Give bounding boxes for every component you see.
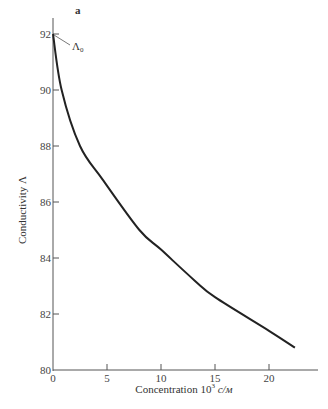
y-tick-label: 84 — [40, 252, 52, 264]
y-axis-title: Conductivity Λ — [16, 176, 28, 244]
y-ticks: 80828486889092 — [40, 28, 59, 376]
annotation-lambda0: Λ0 — [72, 40, 84, 54]
x-axis-title: Concentration 103 c/м — [135, 382, 232, 395]
annotation-leader-line — [54, 35, 70, 45]
y-tick-label: 92 — [40, 28, 51, 40]
y-tick-label: 88 — [40, 140, 52, 152]
conductivity-chart: 80828486889092 05101520 Λ0 a Conductivit… — [0, 0, 328, 409]
conductivity-curve — [53, 34, 295, 348]
y-tick-label: 90 — [40, 84, 52, 96]
axes — [53, 18, 318, 371]
x-tick-label: 5 — [104, 372, 110, 384]
y-tick-label: 86 — [40, 196, 52, 208]
x-tick-label: 20 — [264, 372, 276, 384]
x-tick-label: 0 — [50, 372, 56, 384]
panel-label: a — [75, 4, 81, 16]
y-tick-label: 82 — [40, 308, 51, 320]
x-ticks: 05101520 — [50, 364, 275, 384]
